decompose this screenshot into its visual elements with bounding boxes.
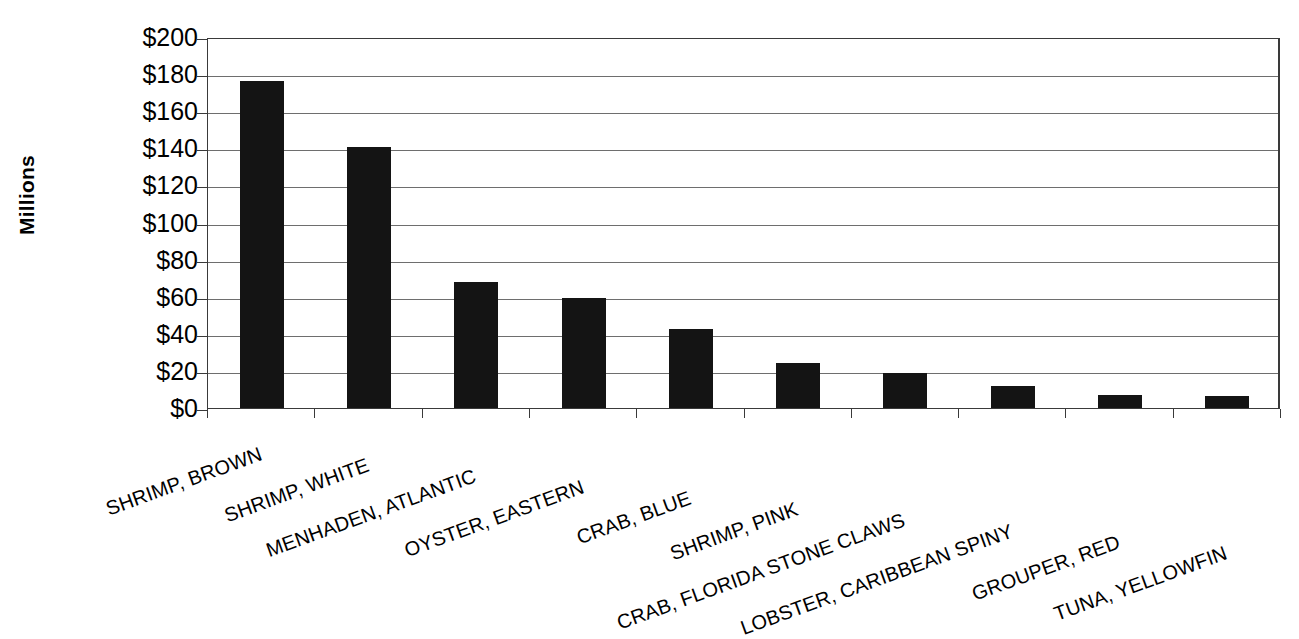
bar[interactable]	[1098, 395, 1142, 408]
x-axis-tick-mark	[1173, 409, 1174, 418]
bar-slot	[315, 39, 422, 408]
y-axis-tick-mark	[197, 262, 208, 263]
bars	[208, 39, 1278, 408]
y-axis-tick-label: $60	[58, 285, 198, 310]
x-axis-tick-mark	[1065, 409, 1066, 418]
x-axis-tick-mark	[1280, 409, 1281, 418]
bar-slot	[637, 39, 744, 408]
x-axis-tick-mark	[422, 409, 423, 418]
x-axis-tick-mark	[529, 409, 530, 418]
bar[interactable]	[776, 363, 820, 408]
bar[interactable]	[454, 282, 498, 408]
y-axis-tick-mark	[197, 336, 208, 337]
bar-slot	[1066, 39, 1173, 408]
y-axis-tick-label: $140	[58, 136, 198, 161]
y-axis-tick-labels: $200$180$160$140$120$100$80$60$40$20$0	[58, 38, 198, 409]
x-axis-tick-mark	[314, 409, 315, 418]
x-axis-tick-mark	[958, 409, 959, 418]
y-axis-tick-mark	[197, 39, 208, 40]
y-axis-tick-mark	[197, 150, 208, 151]
bar[interactable]	[240, 81, 284, 408]
bar-slot	[208, 39, 315, 408]
y-axis-tick-label: $200	[58, 25, 198, 50]
x-axis-tick-mark	[207, 409, 208, 418]
y-axis-tick-label: $160	[58, 99, 198, 124]
bar-slot	[530, 39, 637, 408]
x-axis-tick-mark	[851, 409, 852, 418]
y-axis-tick-label: $80	[58, 248, 198, 273]
plot-area	[207, 38, 1280, 409]
bar[interactable]	[347, 147, 391, 408]
y-axis-tick-mark	[197, 187, 208, 188]
y-axis-tick-mark	[197, 225, 208, 226]
bar-slot	[959, 39, 1066, 408]
y-axis-title: Millions	[15, 135, 39, 255]
y-axis-tick-mark	[197, 113, 208, 114]
y-axis-tick-label: $180	[58, 62, 198, 87]
y-axis-tick-mark	[197, 373, 208, 374]
x-axis-tick-mark	[636, 409, 637, 418]
x-axis-category-labels: SHRIMP, BROWNSHRIMP, WHITEMENHADEN, ATLA…	[0, 409, 1299, 599]
bar-slot	[852, 39, 959, 408]
bar[interactable]	[669, 329, 713, 408]
bar[interactable]	[562, 298, 606, 408]
bar[interactable]	[883, 373, 927, 408]
bar-slot	[745, 39, 852, 408]
bar-slot	[1174, 39, 1281, 408]
y-axis-tick-mark	[197, 76, 208, 77]
bar[interactable]	[991, 386, 1035, 408]
y-axis-tick-label: $40	[58, 322, 198, 347]
y-axis-tick-label: $20	[58, 359, 198, 384]
bar[interactable]	[1205, 396, 1249, 408]
x-axis-tick-mark	[744, 409, 745, 418]
y-axis-tick-mark	[197, 299, 208, 300]
y-axis-tick-label: $120	[58, 173, 198, 198]
bar-slot	[423, 39, 530, 408]
y-axis-tick-label: $100	[58, 211, 198, 236]
